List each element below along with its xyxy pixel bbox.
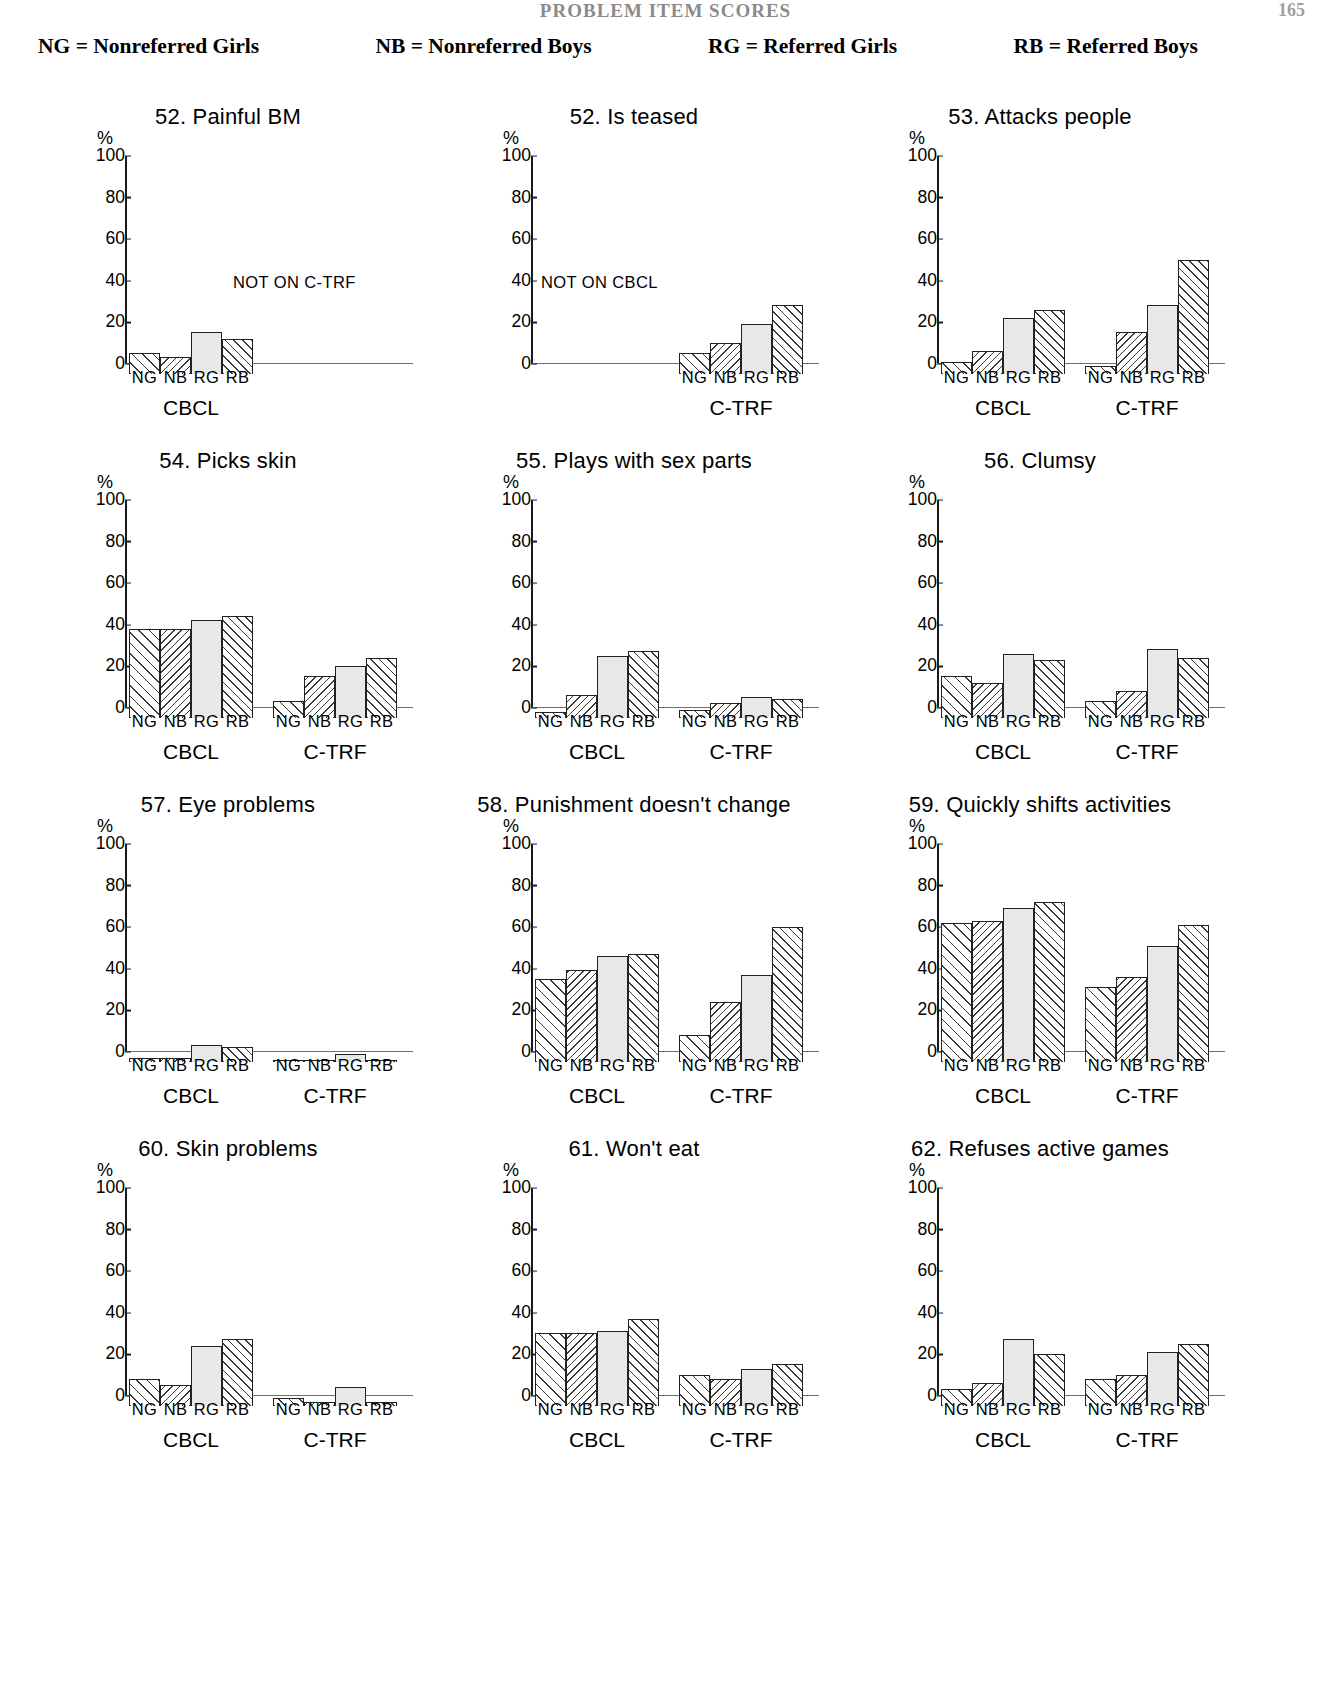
legend-label-rg: Referred Girls: [763, 34, 897, 58]
y-axis-tick-label: 60: [489, 230, 531, 248]
legend-label-rb: Referred Boys: [1066, 34, 1198, 58]
group-label-ctrf: C-TRF: [1085, 740, 1209, 764]
x-axis-tick-label: NB: [710, 1400, 741, 1419]
x-axis-tick-label: RG: [1147, 1056, 1178, 1075]
x-axis-tick-labels-cbcl: NGNBRGRB: [129, 1056, 253, 1075]
y-axis-tick-label: 60: [489, 918, 531, 936]
x-axis-tick-label: NG: [273, 1056, 304, 1075]
group-label-cbcl: CBCL: [941, 740, 1065, 764]
chart-panel: 54. Picks skin%100806040200NGNBRGRBCBCLN…: [28, 440, 428, 784]
x-axis-tick-label: RB: [1034, 1056, 1065, 1075]
y-axis-tick-label: 100: [489, 147, 531, 165]
bar-group-cbcl: [941, 1198, 1065, 1406]
bar-cbcl-rg: [1003, 654, 1034, 718]
bar-ctrf-rg: [1147, 649, 1178, 718]
y-axis-tick-label: 0: [83, 1043, 125, 1061]
bar-group-ctrf: [1085, 1198, 1209, 1406]
x-axis-tick-label: NB: [160, 1400, 191, 1419]
bar-ctrf-nb: [1116, 977, 1147, 1062]
x-axis-tick-label: NB: [566, 712, 597, 731]
y-axis-tick-label: 0: [489, 1387, 531, 1405]
x-axis-tick-label: NG: [941, 1056, 972, 1075]
bar-ctrf-rg: [1147, 305, 1178, 374]
x-axis-tick-label: NG: [1085, 1400, 1116, 1419]
y-axis-tick-mark: [937, 1187, 943, 1188]
bar-cbcl-rb: [222, 1339, 253, 1406]
bar-cbcl-rb: [628, 1319, 659, 1406]
bar-ctrf-rb: [1178, 658, 1209, 718]
group-label-ctrf: C-TRF: [1085, 1084, 1209, 1108]
y-axis-tick-label: 0: [895, 1387, 937, 1405]
bar-group-cbcl: [129, 166, 253, 374]
x-axis-tick-label: NG: [535, 712, 566, 731]
x-axis-tick-labels-cbcl: NGNBRGRB: [129, 1400, 253, 1419]
x-axis-tick-label: RG: [191, 712, 222, 731]
y-axis-line: [937, 500, 939, 708]
x-axis-tick-label: NB: [972, 1056, 1003, 1075]
bar-group-ctrf: [679, 1198, 803, 1406]
bar-group-cbcl: [129, 854, 253, 1062]
legend-eq-rb: =: [1049, 34, 1061, 58]
y-axis-line: [125, 1188, 127, 1396]
y-axis-tick-label: 20: [83, 314, 125, 332]
y-axis-tick-label: 20: [895, 314, 937, 332]
y-axis-tick-label: 80: [83, 877, 125, 895]
plot-area: %100806040200NOT ON CBCLNGNBRGRBC-TRF: [489, 156, 819, 374]
y-axis-tick-mark: [531, 363, 537, 364]
y-axis-tick-label: 100: [895, 1179, 937, 1197]
x-axis-tick-label: RB: [1178, 368, 1209, 387]
group-label-cbcl: CBCL: [941, 1428, 1065, 1452]
plot-area: %100806040200NGNBRGRBCBCLNGNBRGRBC-TRF: [489, 500, 819, 718]
group-label-ctrf: C-TRF: [273, 1084, 397, 1108]
x-axis-tick-labels-ctrf: NGNBRGRB: [679, 1400, 803, 1419]
group-label-ctrf: C-TRF: [679, 1428, 803, 1452]
y-axis-line: [531, 844, 533, 1052]
y-axis-line: [531, 1188, 533, 1396]
x-axis-tick-label: RG: [741, 1056, 772, 1075]
y-axis-tick-label: 60: [489, 574, 531, 592]
plot-area: %100806040200NGNBRGRBCBCLNGNBRGRBC-TRF: [83, 500, 413, 718]
x-axis-tick-labels-ctrf: NGNBRGRB: [679, 368, 803, 387]
x-axis-tick-label: NG: [129, 1400, 160, 1419]
x-axis-tick-label: RB: [772, 1056, 803, 1075]
y-axis-tick-label: 100: [489, 1179, 531, 1197]
y-axis-tick-label: 0: [489, 699, 531, 717]
x-axis-tick-label: NB: [304, 1400, 335, 1419]
bar-cbcl-rb: [1034, 660, 1065, 718]
x-axis-tick-label: NG: [679, 368, 710, 387]
y-axis-tick-mark: [125, 1187, 131, 1188]
x-axis-tick-label: RG: [597, 1400, 628, 1419]
chart-panel: 56. Clumsy%100806040200NGNBRGRBCBCLNGNBR…: [840, 440, 1240, 784]
y-axis-tick-label: 0: [895, 355, 937, 373]
x-axis-tick-label: RB: [772, 368, 803, 387]
plot-area: %100806040200NGNBRGRBCBCLNOT ON C-TRF: [83, 156, 413, 374]
x-axis-tick-label: NB: [304, 712, 335, 731]
y-axis-tick-label: 80: [83, 189, 125, 207]
y-axis-tick-label: 40: [895, 272, 937, 290]
legend-eq-rg: =: [746, 34, 758, 58]
y-axis-tick-label: 80: [489, 533, 531, 551]
y-axis-tick-mark: [937, 499, 943, 500]
bar-cbcl-rg: [597, 956, 628, 1062]
x-axis-tick-label: NG: [679, 1400, 710, 1419]
group-label-ctrf: C-TRF: [1085, 396, 1209, 420]
x-axis-tick-labels-cbcl: NGNBRGRB: [941, 1400, 1065, 1419]
group-label-ctrf: C-TRF: [679, 1084, 803, 1108]
y-axis-tick-label: 40: [83, 1304, 125, 1322]
x-axis-tick-labels-cbcl: NGNBRGRB: [941, 1056, 1065, 1075]
bar-cbcl-rb: [1034, 310, 1065, 374]
x-axis-tick-label: RG: [1147, 712, 1178, 731]
bar-cbcl-rg: [1003, 318, 1034, 374]
chart-panel: 53. Attacks people%100806040200NGNBRGRBC…: [840, 96, 1240, 440]
group-label-ctrf: C-TRF: [1085, 1428, 1209, 1452]
x-axis-tick-label: NB: [972, 1400, 1003, 1419]
bar-cbcl-rg: [1003, 1339, 1034, 1406]
x-axis-tick-label: RB: [628, 712, 659, 731]
x-axis-tick-label: RG: [191, 1056, 222, 1075]
x-axis-tick-label: NB: [1116, 1400, 1147, 1419]
x-axis-tick-labels-cbcl: NGNBRGRB: [941, 368, 1065, 387]
y-axis-tick-label: 40: [83, 616, 125, 634]
y-axis-tick-label: 40: [895, 1304, 937, 1322]
x-axis-tick-label: RB: [1034, 712, 1065, 731]
y-axis-line: [937, 1188, 939, 1396]
